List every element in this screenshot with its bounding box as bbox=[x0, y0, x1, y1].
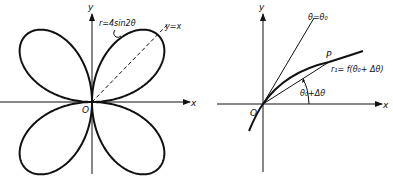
ray-label: θ=θ₀ bbox=[308, 13, 328, 22]
angle-label: θ₀+Δθ bbox=[300, 89, 325, 98]
curve-label: r=4sin2θ bbox=[99, 19, 136, 28]
line-y-equals-x bbox=[92, 24, 168, 102]
right-x-label: x bbox=[382, 100, 389, 110]
radius-label: r₁= f(θ₀+ Δθ) bbox=[331, 65, 384, 74]
left-figure: y x O r=4sin2θ y=x bbox=[0, 2, 197, 174]
line-label: y=x bbox=[164, 22, 181, 31]
left-y-label: y bbox=[87, 2, 94, 12]
left-origin-label: O bbox=[82, 105, 89, 115]
point-label: P bbox=[326, 50, 332, 60]
left-x-label: x bbox=[190, 98, 197, 108]
right-origin-label: O bbox=[250, 108, 257, 118]
right-figure: y x O θ=θ₀ P r₁= f(θ₀+ Δθ) θ₀+Δθ bbox=[217, 2, 389, 172]
curve-label-pointer bbox=[114, 30, 121, 37]
diagram-canvas: y x O r=4sin2θ y=x y x O θ=θ₀ P r₁= f(θ₀… bbox=[0, 0, 393, 188]
right-y-label: y bbox=[258, 2, 265, 12]
